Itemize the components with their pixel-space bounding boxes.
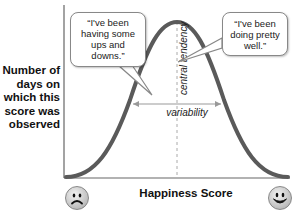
variability-label: variability xyxy=(166,107,209,118)
bubble-line: having some xyxy=(71,28,145,39)
bubble-line: ups and xyxy=(71,39,145,50)
y-label-line: which this xyxy=(0,91,60,105)
sad-face-icon xyxy=(65,186,89,210)
bubble-line: well.” xyxy=(223,40,287,51)
y-label-line: days on xyxy=(0,78,60,92)
y-label-line: Number of xyxy=(0,64,60,78)
happy-face-icon xyxy=(268,186,292,210)
y-label-line: score was xyxy=(0,105,60,119)
bubble-line: “I've been xyxy=(71,17,145,28)
bubble-line: downs.” xyxy=(71,50,145,61)
speech-bubble-ups-and-downs: “I've been having some ups and downs.” xyxy=(70,12,146,67)
bubble-line: “I've been xyxy=(223,18,287,29)
x-axis-label: Happiness Score xyxy=(126,187,246,199)
bubble-line: doing pretty xyxy=(223,29,287,40)
y-axis-label: Number of days on which this score was o… xyxy=(0,64,60,132)
y-label-line: observed xyxy=(0,118,60,132)
speech-bubble-doing-well: “I've been doing pretty well.” xyxy=(222,12,288,56)
